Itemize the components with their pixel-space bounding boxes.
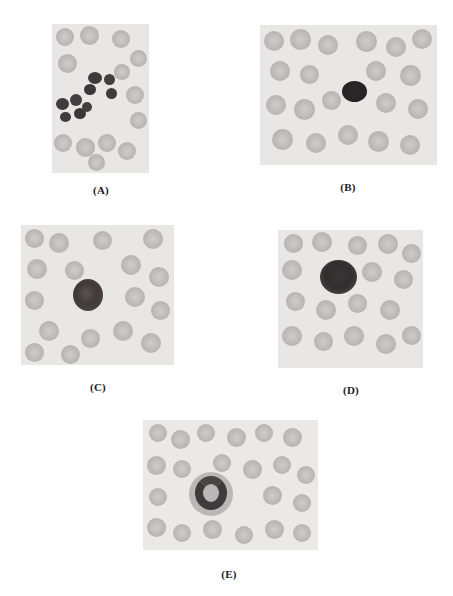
micrograph-d — [278, 230, 423, 368]
nucleus — [342, 81, 367, 102]
panel-label-e: (E) — [221, 568, 237, 580]
panel-label-b: (B) — [340, 181, 356, 193]
panel-label-d: (D) — [343, 384, 359, 396]
micrograph-e — [143, 420, 318, 550]
micrograph-b — [260, 25, 437, 165]
panel-label-a: (A) — [93, 184, 109, 196]
granular-cell — [73, 279, 103, 311]
granular-cell — [320, 260, 357, 294]
horseshoe-nucleus — [195, 476, 227, 510]
panel-label-c: (C) — [90, 381, 106, 393]
micrograph-c — [21, 225, 174, 365]
micrograph-a — [52, 24, 149, 173]
nucleus-lobe — [88, 72, 102, 84]
